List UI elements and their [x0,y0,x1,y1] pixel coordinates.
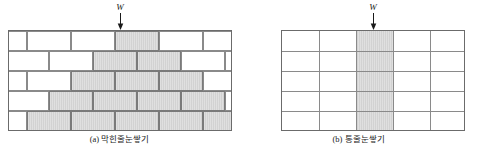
down-arrow-icon [369,13,378,30]
bed-joint [282,71,464,72]
wall-stack-bond [281,30,465,131]
head-joint [393,31,394,130]
brick [225,91,232,111]
brick [71,31,115,51]
brick-shaded [137,51,181,71]
brick [49,51,93,71]
load-label-a: W [100,2,140,12]
brick [203,71,232,91]
brick [8,71,27,91]
bed-joint [282,51,464,52]
down-arrow-icon [116,13,125,30]
brick-shaded [27,111,71,131]
brick [203,31,232,51]
brick [27,71,71,91]
wall-running-bond [8,30,232,131]
figure-root: W [0,0,478,151]
brick [159,31,203,51]
brick-shaded [71,111,115,131]
brick [8,31,27,51]
load-indicator-b: W [353,2,393,30]
brick-shaded [115,31,159,51]
shaded-load-column [356,30,394,131]
bed-joint [282,111,464,112]
brick-shaded [115,111,159,131]
brick [8,91,49,111]
brick-shaded [93,51,137,71]
load-indicator-a: W [100,2,140,30]
brick-shaded [49,91,93,111]
brick [8,111,27,131]
brick [225,51,232,71]
load-label-b: W [353,2,393,12]
panel-caption-a: (a) 막힌줄눈쌓기 [0,134,239,145]
panel-running-bond: W [0,0,239,151]
brick-shaded [181,91,225,111]
brick-shaded [115,71,159,91]
brick [181,51,225,71]
head-joint [430,31,431,130]
brick-shaded [137,91,181,111]
brick-shaded [93,91,137,111]
head-joint [356,31,357,130]
head-joint [319,31,320,130]
brick-shaded [71,71,115,91]
brick-shaded [203,111,232,131]
brick-shaded [159,71,203,91]
panel-caption-b: (b) 통줄눈쌓기 [239,134,478,145]
brick [8,51,49,71]
bed-joint [282,91,464,92]
panel-stack-bond: W (b) 통줄눈쌓기 [239,0,478,151]
brick-shaded [159,111,203,131]
brick [27,31,71,51]
